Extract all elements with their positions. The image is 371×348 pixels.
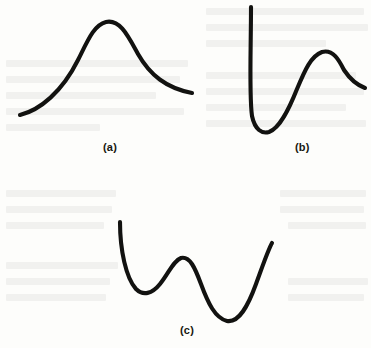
curve-b-path — [250, 7, 365, 132]
curve-a-path — [20, 22, 192, 115]
curve-canvas — [0, 0, 371, 348]
panel-caption-c: (c) — [180, 324, 194, 336]
panel-caption-b: (b) — [295, 141, 310, 153]
curve-c-path — [120, 222, 272, 321]
figure-container: (a) (b) (c) — [0, 0, 371, 348]
panel-caption-a: (a) — [103, 141, 117, 153]
